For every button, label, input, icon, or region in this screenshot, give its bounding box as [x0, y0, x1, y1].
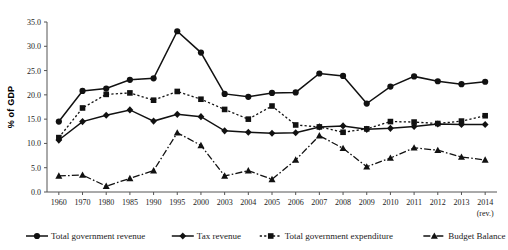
x-tick-label: 2000 [193, 198, 209, 207]
legend-label: Budget Balance [448, 231, 505, 241]
data-point-marker [340, 129, 346, 135]
x-tick-label: 2012 [430, 198, 446, 207]
legend-item-1[interactable]: Total government revenue [26, 231, 145, 241]
y-tick-label: 5.0 [31, 164, 41, 173]
series-1 [56, 28, 489, 125]
y-axis-title: % of GDP [6, 86, 16, 129]
series-4 [55, 129, 488, 189]
data-point-marker [245, 167, 252, 173]
data-point-marker [103, 112, 110, 119]
data-point-marker [435, 78, 441, 84]
data-point-marker [174, 129, 181, 135]
data-point-marker [316, 70, 322, 76]
data-point-marker [317, 124, 323, 130]
data-point-marker [198, 50, 204, 56]
x-tick-label: 2010 [382, 198, 398, 207]
data-point-marker [387, 125, 394, 132]
data-point-marker [388, 119, 394, 125]
data-point-marker [387, 84, 393, 90]
y-tick-label: 0.0 [31, 188, 41, 197]
x-tick-label: 2009 [359, 198, 375, 207]
data-point-marker [103, 92, 109, 98]
data-point-marker [150, 117, 157, 124]
chart-svg: 0.05.010.015.020.025.030.035.0% of GDP19… [0, 0, 508, 250]
x-tick-label: 1990 [146, 198, 162, 207]
data-point-marker [482, 121, 489, 128]
data-point-marker [245, 94, 251, 100]
data-point-marker [150, 167, 157, 173]
data-point-marker [126, 175, 133, 181]
data-point-marker [292, 156, 299, 162]
data-point-marker [150, 75, 156, 81]
data-point-marker [364, 126, 370, 132]
data-point-marker [198, 96, 204, 102]
x-tick-label: 1970 [75, 198, 91, 207]
data-point-marker [222, 91, 228, 97]
data-point-marker [198, 113, 205, 120]
data-point-marker [80, 105, 86, 111]
legend-label: Tax revenue [197, 231, 241, 241]
x-tick-label: 1995 [169, 198, 185, 207]
data-point-marker [151, 97, 157, 103]
legend-item-4[interactable]: Budget Balance [423, 231, 505, 241]
data-point-marker [340, 73, 346, 79]
data-point-marker [268, 233, 274, 239]
x-tick-label: 2004 [240, 198, 256, 207]
data-point-marker [364, 101, 370, 107]
y-tick-label: 30.0 [27, 42, 41, 51]
data-point-marker [340, 122, 347, 129]
x-tick-label: 2003 [217, 198, 233, 207]
data-point-marker [435, 121, 441, 127]
x-tick-label: 2005 [264, 198, 280, 207]
data-point-marker [103, 85, 109, 91]
data-point-marker [482, 156, 489, 162]
data-point-marker [127, 77, 133, 83]
data-point-marker [79, 88, 85, 94]
x-tick-label: 1960 [51, 198, 67, 207]
data-point-marker [340, 145, 347, 151]
data-point-marker [293, 89, 299, 95]
legend-item-3[interactable]: Total government expenditure [260, 231, 393, 241]
data-point-marker [246, 116, 252, 122]
data-point-marker [197, 142, 204, 148]
data-point-marker [174, 89, 180, 95]
data-point-marker [482, 79, 488, 85]
data-point-marker [56, 135, 62, 141]
data-point-marker [292, 129, 299, 136]
data-point-marker [269, 130, 276, 137]
x-tick-label: 2007 [311, 198, 327, 207]
data-point-marker [179, 232, 186, 239]
x-tick-label: 2014 [477, 198, 493, 207]
data-point-marker [458, 81, 464, 87]
legend-item-2[interactable]: Tax revenue [172, 231, 241, 241]
y-tick-label: 10.0 [27, 139, 41, 148]
data-point-marker [126, 106, 133, 113]
y-tick-label: 15.0 [27, 115, 41, 124]
data-point-marker [127, 90, 133, 96]
x-axis-note: (rev.) [477, 209, 494, 218]
data-point-marker [411, 73, 417, 79]
x-tick-label: 2011 [406, 198, 422, 207]
data-point-marker [459, 118, 465, 124]
axes: 0.05.010.015.020.025.030.035.0% of GDP19… [6, 18, 497, 218]
x-tick-label: 2013 [453, 198, 469, 207]
legend: Total government revenueTax revenueTotal… [26, 231, 506, 241]
y-tick-label: 25.0 [27, 67, 41, 76]
x-tick-label: 1980 [98, 198, 114, 207]
data-point-marker [56, 118, 62, 124]
chart-container: 0.05.010.015.020.025.030.035.0% of GDP19… [0, 0, 508, 250]
y-tick-label: 35.0 [27, 18, 41, 27]
data-point-marker [269, 103, 275, 109]
y-tick-label: 20.0 [27, 91, 41, 100]
data-point-marker [174, 111, 181, 118]
data-point-marker [79, 171, 86, 177]
x-tick-label: 2008 [335, 198, 351, 207]
data-point-marker [222, 107, 228, 113]
data-point-marker [174, 28, 180, 34]
data-point-marker [245, 129, 252, 136]
legend-label: Total government expenditure [285, 231, 393, 241]
data-point-marker [221, 127, 228, 134]
data-point-marker [482, 113, 488, 119]
data-point-marker [434, 147, 441, 153]
series-2 [55, 106, 488, 143]
